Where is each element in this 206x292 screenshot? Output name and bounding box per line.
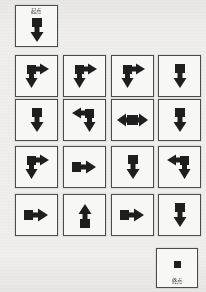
end-label: 终点 xyxy=(157,278,197,284)
arrow-down-right-icon xyxy=(71,63,98,90)
grid-cell-r2c3[interactable] xyxy=(111,99,154,141)
arrow-down-right-icon xyxy=(23,154,50,181)
arrow-down-right-icon xyxy=(23,63,50,90)
grid-cell-r3c1[interactable] xyxy=(15,146,58,188)
arrow-down-icon xyxy=(168,202,192,229)
grid-cell-r4c4[interactable] xyxy=(158,194,201,236)
grid-cell-r4c3[interactable] xyxy=(111,194,154,236)
grid-cell-r1c2[interactable] xyxy=(63,55,106,97)
grid-cell-r2c4[interactable] xyxy=(158,99,201,141)
start-label: 起点 xyxy=(16,8,57,14)
arrow-down-icon xyxy=(168,63,192,90)
grid-cell-r1c1[interactable] xyxy=(15,55,58,97)
arrow-up-icon xyxy=(73,202,97,229)
arrow-right-icon xyxy=(119,203,146,227)
arrow-down-icon xyxy=(25,17,49,44)
grid-cell-r2c1[interactable] xyxy=(15,99,58,141)
arrow-down-icon xyxy=(121,154,145,181)
arrow-left-down-icon xyxy=(166,154,193,181)
arrow-left-down-icon xyxy=(71,107,98,134)
arrow-right-icon xyxy=(71,155,98,179)
end-cell[interactable]: 终点 xyxy=(156,248,198,288)
grid-cell-r2c2[interactable] xyxy=(63,99,106,141)
arrow-left-right-icon xyxy=(117,108,148,132)
start-cell[interactable]: 起点 xyxy=(15,5,58,47)
arrow-down-right-icon xyxy=(119,63,146,90)
grid-cell-r3c4[interactable] xyxy=(158,146,201,188)
arrow-grid-stage: 起点终点 xyxy=(0,0,206,292)
arrow-down-icon xyxy=(168,107,192,134)
grid-cell-r4c1[interactable] xyxy=(15,194,58,236)
grid-cell-r1c4[interactable] xyxy=(158,55,201,97)
grid-cell-r4c2[interactable] xyxy=(63,194,106,236)
arrow-down-icon xyxy=(25,107,49,134)
grid-cell-r3c2[interactable] xyxy=(63,146,106,188)
grid-cell-r1c3[interactable] xyxy=(111,55,154,97)
grid-cell-r3c3[interactable] xyxy=(111,146,154,188)
square-block-icon xyxy=(174,261,181,268)
arrow-right-icon xyxy=(23,203,50,227)
